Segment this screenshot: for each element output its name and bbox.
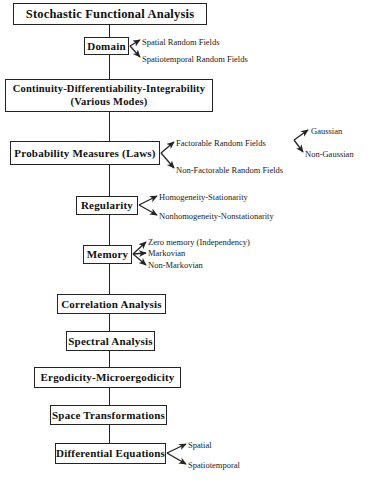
node-label-line2: (Various Modes) xyxy=(71,96,148,108)
node-space-transformations[interactable]: Space Transformations xyxy=(50,405,167,425)
arrow-memory-nonmarkovian xyxy=(133,254,146,265)
node-label: Correlation Analysis xyxy=(61,298,162,311)
branch-label-non-gaussian[interactable]: Non-Gaussian xyxy=(305,150,354,159)
node-differential-equations[interactable]: Differential Equations xyxy=(55,443,166,464)
branch-label-homogeneity-stationarity[interactable]: Homogeneity-Stationarity xyxy=(159,193,248,202)
branch-label-non-factorable-random-fields[interactable]: Non-Factorable Random Fields xyxy=(176,166,283,175)
branch-label-non-markovian[interactable]: Non-Markovian xyxy=(148,261,203,270)
node-ergodicity-microergodicity[interactable]: Ergodicity-Microergodicity xyxy=(34,367,181,388)
branch-label-spatial[interactable]: Spatial xyxy=(188,441,212,450)
node-regularity[interactable]: Regularity xyxy=(76,196,138,215)
spine-segment xyxy=(109,55,110,79)
arrow-prob-factorable xyxy=(161,142,174,153)
node-label: Space Transformations xyxy=(52,409,165,422)
arrow-regularity-nonhomogeneity xyxy=(139,205,157,215)
spine-segment xyxy=(109,351,110,367)
node-probability-measures-laws[interactable]: Probability Measures (Laws) xyxy=(10,141,160,165)
branch-label-nonhomogeneity-nonstationarity[interactable]: Nonhomogeneity-Nonstationarity xyxy=(159,212,274,221)
arrow-regularity-homogeneity xyxy=(139,196,157,205)
node-label: Stochastic Functional Analysis xyxy=(26,7,195,21)
spine-segment xyxy=(109,215,110,245)
node-label: Spectral Analysis xyxy=(68,335,152,348)
arrow-factorable-gaussian xyxy=(294,130,308,140)
node-label: Domain xyxy=(87,40,125,53)
branch-label-markovian[interactable]: Markovian xyxy=(148,249,185,258)
branch-label-spatiotemporal[interactable]: Spatiotemporal xyxy=(188,461,240,470)
arrow-factorable-nongaussian xyxy=(294,140,303,152)
node-spectral-analysis[interactable]: Spectral Analysis xyxy=(66,331,155,351)
branch-label-zero-memory-independency[interactable]: Zero memory (Independency) xyxy=(148,238,250,247)
node-stochastic-functional-analysis[interactable]: Stochastic Functional Analysis xyxy=(13,3,207,25)
spine-segment xyxy=(109,165,110,196)
node-memory[interactable]: Memory xyxy=(83,245,132,264)
node-label: Ergodicity-Microergodicity xyxy=(41,371,175,384)
branch-label-gaussian[interactable]: Gaussian xyxy=(311,127,342,136)
node-label: Regularity xyxy=(81,199,133,212)
arrow-domain-spatial xyxy=(130,40,140,46)
node-label: Differential Equations xyxy=(56,447,165,460)
node-label: Continuity-Differentiability-Integrabili… xyxy=(13,83,206,95)
spine-segment xyxy=(109,388,110,405)
spine-segment xyxy=(109,425,110,443)
arrow-prob-nonfactorable xyxy=(161,153,174,168)
arrow-diffeq-spatiotemporal xyxy=(167,453,186,464)
spine-segment xyxy=(109,112,110,141)
spine-segment xyxy=(109,25,110,37)
node-label: Probability Measures (Laws) xyxy=(14,147,155,160)
spine-segment xyxy=(109,264,110,294)
arrow-diffeq-spatial xyxy=(167,444,186,453)
node-label: Memory xyxy=(87,248,129,261)
node-continuity-differentiability-integrability[interactable]: Continuity-Differentiability-Integrabili… xyxy=(5,79,213,112)
branch-label-factorable-random-fields[interactable]: Factorable Random Fields xyxy=(176,139,266,148)
branch-label-spatiotemporal-random-fields[interactable]: Spatiotemporal Random Fields xyxy=(142,55,248,64)
branch-label-spatial-random-fields[interactable]: Spatial Random Fields xyxy=(142,38,219,47)
diagram-canvas: Stochastic Functional Analysis Domain Co… xyxy=(0,0,370,480)
arrow-domain-spatiotemporal xyxy=(130,46,140,57)
node-correlation-analysis[interactable]: Correlation Analysis xyxy=(57,294,166,314)
arrow-memory-markovian xyxy=(133,253,146,254)
arrow-memory-zero xyxy=(133,242,146,254)
node-domain[interactable]: Domain xyxy=(84,37,129,55)
spine-segment xyxy=(109,314,110,331)
